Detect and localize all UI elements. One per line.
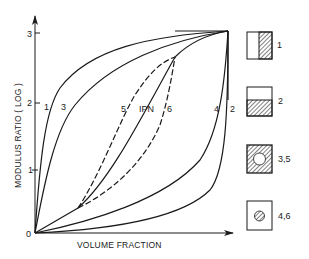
curves	[35, 31, 228, 233]
label-curve-3: 3	[61, 102, 66, 112]
label-curve-1: 1	[44, 102, 49, 112]
legend-label-3-5: 3,5	[278, 154, 291, 164]
legend: 1 2 3,5 4,6	[247, 32, 291, 230]
legend-item-4-6: 4,6	[247, 201, 291, 230]
label-curve-6: 6	[167, 104, 172, 114]
legend-item-1: 1	[247, 32, 282, 59]
legend-item-3-5: 3,5	[247, 145, 291, 173]
modulus-ratio-diagram: 0 1 2 3 VOLUME FRACTION MODULUS RATIO ( …	[0, 0, 309, 259]
label-curve-5: 5	[121, 104, 126, 114]
y-tick-label-3: 3	[27, 29, 32, 39]
curve-5	[78, 57, 175, 208]
y-axis-title: MODULUS RATIO ( LOG )	[13, 83, 23, 188]
x-axis-title: VOLUME FRACTION	[77, 240, 162, 250]
axes: 0 1 2 3 VOLUME FRACTION MODULUS RATIO ( …	[13, 16, 233, 250]
label-curve-ipn: IPN	[139, 104, 154, 114]
label-curve-2: 2	[230, 104, 235, 114]
curve-3	[35, 31, 228, 233]
legend-label-4-6: 4,6	[278, 211, 291, 221]
legend-label-2: 2	[278, 96, 283, 106]
y-tick-label-2: 2	[27, 98, 32, 108]
legend-label-1: 1	[277, 40, 282, 50]
curve-6	[78, 57, 175, 208]
y-tick-label-0: 0	[26, 229, 31, 239]
y-tick-label-1: 1	[28, 165, 33, 175]
label-curve-4: 4	[214, 104, 219, 114]
legend-item-2: 2	[247, 87, 283, 116]
